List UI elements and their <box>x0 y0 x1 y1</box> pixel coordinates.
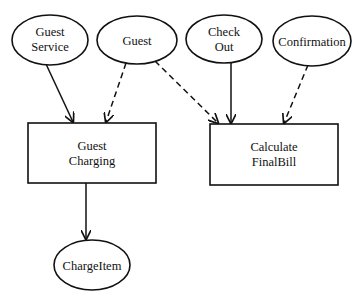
edge-confirmation-to-calculate-finalbill <box>284 65 308 123</box>
node-label-line2: Charging <box>69 154 116 168</box>
edge-guest-to-guest-charging <box>106 63 126 122</box>
node-guest-service[interactable]: Guest Service <box>12 15 88 65</box>
node-label-line1: Confirmation <box>278 35 346 49</box>
edge-guest-to-calculate-finalbill <box>155 61 218 123</box>
node-label-line1: Calculate <box>250 140 298 154</box>
node-label-line1: Guest <box>122 34 152 48</box>
node-guest[interactable]: Guest <box>97 16 177 64</box>
node-label-line2: Out <box>215 40 234 54</box>
node-calculate-finalbill[interactable]: Calculate FinalBill <box>210 124 338 185</box>
node-confirmation[interactable]: Confirmation <box>273 16 351 66</box>
node-label-line1: ChargeItem <box>63 259 122 273</box>
node-label-line1: Check <box>208 25 241 39</box>
rect-shape <box>28 123 156 183</box>
node-label-line1: Guest <box>35 25 65 39</box>
node-check-out[interactable]: Check Out <box>186 15 262 63</box>
node-label-line2: Service <box>31 40 69 54</box>
node-label-line1: Guest <box>77 139 107 153</box>
diagram-canvas: Guest Service Guest Check Out Confirmati… <box>0 0 357 305</box>
node-label-line2: FinalBill <box>252 155 297 169</box>
node-guest-charging[interactable]: Guest Charging <box>28 123 156 183</box>
ellipse-shape <box>186 15 262 63</box>
node-chargeitem[interactable]: ChargeItem <box>54 240 130 290</box>
edge-guest-service-to-guest-charging <box>46 64 73 122</box>
